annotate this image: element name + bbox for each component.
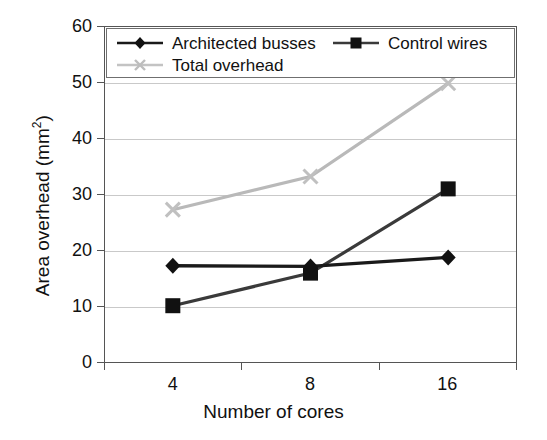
legend-entry-total-overhead: Total overhead [117,57,284,74]
y-tick-mark-20 [97,250,104,251]
y-tick-label-0: 0 [82,353,92,371]
y-tick-label-40: 40 [72,129,92,147]
legend-entry-architected-busses: Architected busses [117,35,316,52]
gridline-50 [105,83,516,84]
x-tick-mark-0 [104,363,105,370]
y-tick-mark-10 [97,306,104,307]
legend-label-control-wires: Control wires [388,35,487,52]
y-tick-label-20: 20 [72,241,92,259]
y-axis-title-exponent: 2 [30,122,44,129]
y-tick-mark-40 [97,138,104,139]
x-marker-icon [117,57,163,73]
x-tick-label-8: 8 [305,374,315,394]
legend-row-2: Total overhead [117,54,284,76]
chart-legend: Architected busses Control wires [106,28,515,78]
x-tick-label-4: 4 [168,374,178,394]
gridline-30 [105,195,516,196]
diamond-marker-icon [117,35,163,51]
gridline-10 [105,307,516,308]
square-marker-icon [333,35,379,51]
legend-entry-control-wires: Control wires [333,35,487,52]
y-axis-title-text: Area overhead (mm [32,128,53,296]
y-tick-label-10: 10 [72,297,92,315]
y-tick-label-50: 50 [72,73,92,91]
legend-row-1: Architected busses [117,32,316,54]
legend-label-total-overhead: Total overhead [172,57,284,74]
y-tick-label-30: 30 [72,185,92,203]
x-tick-mark-2 [379,363,380,370]
y-tick-mark-60 [97,26,104,27]
y-tick-mark-30 [97,194,104,195]
x-tick-label-16: 16 [437,374,457,394]
legend-row-1-col-2: Control wires [333,32,487,54]
y-tick-label-60: 60 [72,17,92,35]
x-axis-title: Number of cores [0,401,547,423]
legend-label-architected-busses: Architected busses [172,35,316,52]
y-tick-mark-50 [97,82,104,83]
x-tick-mark-3 [516,363,517,370]
chart-figure: 60 50 40 30 20 10 0 Area overhead (mm2) [0,0,547,440]
y-tick-mark-0 [97,362,104,363]
gridline-40 [105,139,516,140]
y-axis-title: Area overhead (mm2) [30,76,53,336]
x-tick-mark-1 [241,363,242,370]
gridline-20 [105,251,516,252]
y-axis-title-paren: ) [32,115,53,121]
